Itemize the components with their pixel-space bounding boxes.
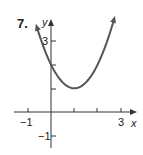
- x-ticks: [28, 108, 121, 112]
- left-arrowhead-icon: [35, 24, 41, 32]
- x-axis-arrow-icon: [130, 109, 137, 115]
- parabola-curve: [37, 20, 114, 88]
- x-axis-label: x: [130, 117, 137, 129]
- graph: −1 3 x y 3 −1: [0, 0, 143, 155]
- y-axis-arrow-icon: [48, 19, 54, 26]
- x-tick-label-neg1: −1: [20, 116, 33, 128]
- y-tick-label-neg1: −1: [38, 130, 51, 142]
- y-ticks: [51, 41, 56, 136]
- right-arrowhead-icon: [110, 16, 116, 24]
- y-axis-label: y: [41, 16, 49, 28]
- x-tick-label-3: 3: [118, 116, 124, 128]
